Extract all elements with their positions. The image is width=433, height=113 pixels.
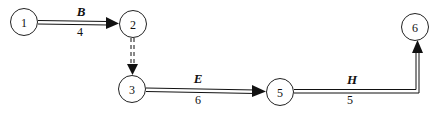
edge-label-activity: B [76, 4, 86, 19]
node-3: 3 [119, 76, 146, 103]
network-diagram: B 4 E 6 H 5 1 2 3 5 6 [0, 0, 433, 113]
node-2: 2 [120, 11, 147, 38]
svg-text:3: 3 [129, 83, 135, 97]
svg-text:6: 6 [412, 21, 418, 35]
edge-1-2: B 4 [38, 4, 119, 39]
edge-label-duration: 5 [347, 93, 353, 107]
svg-text:5: 5 [277, 86, 283, 100]
edge-label-activity: E [193, 71, 203, 86]
edge-2-3-dummy [127, 38, 138, 75]
svg-text:2: 2 [130, 18, 136, 32]
edge-label-duration: 4 [77, 25, 83, 39]
edge-label-activity: H [346, 72, 358, 87]
edge-3-5: E 6 [146, 71, 266, 107]
node-5: 5 [267, 79, 294, 106]
edge-5-6: H 5 [294, 40, 423, 107]
node-6: 6 [402, 14, 429, 41]
edge-label-duration: 6 [195, 93, 201, 107]
node-1: 1 [11, 9, 38, 36]
svg-text:1: 1 [21, 16, 27, 30]
